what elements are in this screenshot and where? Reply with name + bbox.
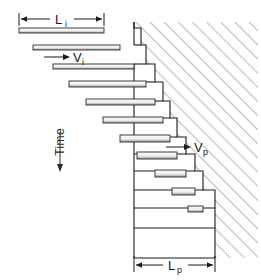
rod-snapshot (120, 135, 170, 142)
label-velocity-impact: V (73, 50, 82, 65)
label-velocity-penetration-subscript: p (203, 147, 208, 157)
label-velocity-penetration: V (194, 140, 203, 155)
label-length-initial: L (55, 12, 62, 27)
rod-snapshot (188, 206, 203, 212)
label-length-penetration: L (168, 258, 175, 273)
rod-snapshot (172, 188, 195, 195)
penetration-time-diagram: L i V i V p Time (0, 0, 261, 280)
diagram-root: L i V i V p Time (0, 0, 261, 280)
rod-snapshot (155, 170, 186, 177)
label-velocity-impact-subscript: i (82, 57, 84, 67)
rod-snapshot (53, 64, 134, 69)
rod-snapshot (19, 28, 104, 33)
rod-snapshot (86, 99, 155, 105)
time-axis: Time (53, 128, 67, 172)
velocity-arrow-vi (44, 54, 70, 60)
label-length-initial-subscript: i (65, 19, 67, 29)
rod-snapshot (137, 152, 177, 159)
rod-snapshot (69, 81, 146, 87)
rod-snapshot (103, 117, 163, 123)
label-length-penetration-subscript: p (177, 265, 182, 275)
